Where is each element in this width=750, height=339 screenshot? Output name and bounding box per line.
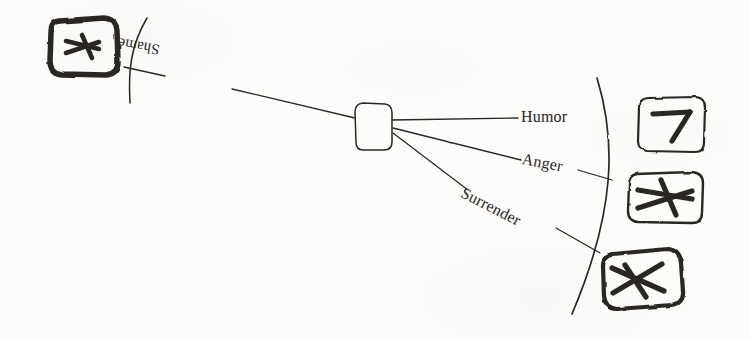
box-right-bottom[interactable]	[603, 249, 683, 309]
connector-anger	[393, 128, 521, 160]
center-node[interactable]	[355, 103, 392, 150]
connector-humor	[392, 118, 518, 120]
connector-anger-stub	[578, 170, 612, 180]
connector-shame	[232, 89, 355, 118]
box-right-top[interactable]	[638, 97, 705, 152]
box-left[interactable]	[50, 18, 118, 75]
crossed-arrow-glyph	[638, 180, 692, 215]
diagram-canvas: Shame Humor Anger Surrender	[0, 0, 750, 339]
crossed-arrow-glyph	[66, 35, 99, 58]
branch-label-humor: Humor	[521, 108, 567, 126]
connector-surrender	[393, 133, 468, 190]
box-right-middle[interactable]	[628, 172, 703, 223]
barred-arrow-glyph	[612, 264, 664, 297]
left-boundary-arc	[129, 18, 147, 103]
diagram-drawing	[0, 0, 750, 339]
connector-surrender-stub	[556, 228, 600, 253]
bent-arrow-glyph	[653, 112, 690, 141]
